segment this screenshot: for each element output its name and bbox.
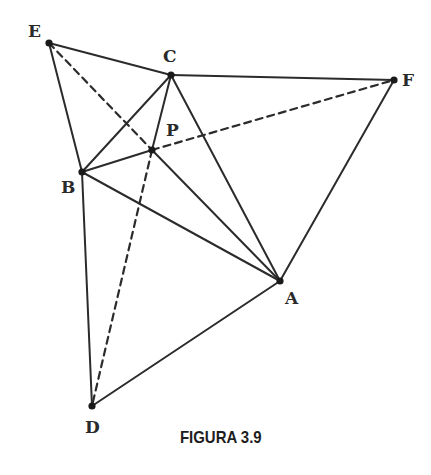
figure-caption: FIGURA 3.9	[26, 428, 405, 448]
geometry-figure: ECFPBAD	[0, 0, 431, 475]
dashed-segment-ep	[49, 43, 152, 150]
point-b	[78, 168, 85, 175]
point-d	[88, 402, 95, 409]
solid-segment-eb	[49, 43, 82, 172]
segments	[49, 43, 394, 406]
solid-segment-cf	[171, 75, 394, 80]
point-p	[148, 146, 155, 153]
point-labels: ECFPBAD	[28, 21, 414, 437]
dashed-segment-pf	[152, 80, 394, 150]
solid-segment-ec	[49, 43, 171, 75]
label-e: E	[28, 21, 41, 41]
point-f	[390, 76, 397, 83]
label-b: B	[61, 177, 75, 197]
solid-segment-da	[92, 281, 280, 406]
solid-segment-bd	[82, 172, 92, 406]
solid-segment-fa	[280, 80, 394, 281]
point-e	[45, 39, 52, 46]
label-a: A	[284, 288, 299, 308]
dashed-segment-pd	[92, 150, 152, 406]
point-c	[167, 71, 174, 78]
label-p: P	[166, 120, 179, 140]
solid-segment-pa	[152, 150, 280, 281]
label-f: F	[402, 70, 414, 90]
label-c: C	[163, 46, 177, 66]
point-a	[276, 277, 283, 284]
